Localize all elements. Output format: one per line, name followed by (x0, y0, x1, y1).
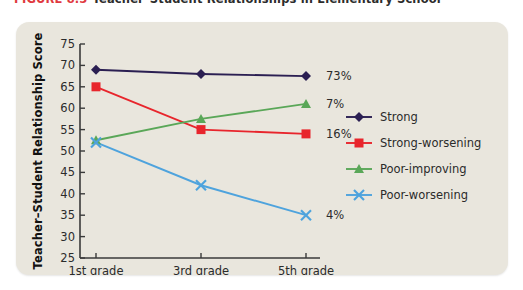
y-tick-label: 50 (60, 144, 75, 158)
y-tick-label: 35 (60, 208, 75, 222)
y-tick-label: 75 (60, 37, 75, 51)
line-chart: 25303540455055606570751st grade3rd grade… (16, 22, 508, 275)
y-tick-label: 60 (60, 101, 75, 115)
x-tick-label: 3rd grade (173, 264, 229, 275)
y-axis-title: Teacher–Student Relationship Score (31, 33, 45, 270)
legend-label-strong: Strong (380, 110, 418, 124)
y-tick-label: 45 (60, 165, 75, 179)
legend-marker-strong (354, 112, 364, 122)
y-tick-label: 70 (60, 58, 75, 72)
data-point-strong (91, 65, 101, 75)
y-tick-label: 40 (60, 187, 75, 201)
data-point-strong-worsening (302, 129, 311, 138)
end-label-poor-improving: 7% (326, 97, 344, 111)
y-tick-label: 25 (60, 251, 75, 265)
data-point-strong-worsening (197, 125, 206, 134)
legend-label-poor-improving: Poor-improving (380, 162, 467, 176)
x-tick-label: 1st grade (69, 264, 124, 275)
end-label-strong-worsening: 16% (326, 127, 352, 141)
legend-label-strong-worsening: Strong-worsening (380, 136, 481, 150)
legend-marker-strong-worsening (355, 139, 364, 148)
figure-caption-text: Teacher–Student Relationships in Element… (93, 0, 441, 6)
y-tick-label: 65 (60, 80, 75, 94)
y-tick-label: 30 (60, 230, 75, 244)
legend-label-poor-worsening: Poor-worsening (380, 188, 468, 202)
figure-number: FIGURE 8.5 (14, 0, 88, 6)
end-label-strong: 73% (326, 69, 352, 83)
y-tick-label: 55 (60, 123, 75, 137)
data-point-poor-improving (301, 99, 311, 108)
figure-root: FIGURE 8.5Teacher–Student Relationships … (0, 0, 523, 290)
data-point-strong (196, 69, 206, 79)
figure-caption: FIGURE 8.5Teacher–Student Relationships … (14, 0, 441, 6)
data-point-strong-worsening (92, 82, 101, 91)
x-tick-label: 5th grade (278, 264, 334, 275)
series-line-poor-worsening (96, 142, 306, 215)
end-label-poor-worsening: 4% (326, 208, 344, 222)
data-point-strong (301, 71, 311, 81)
